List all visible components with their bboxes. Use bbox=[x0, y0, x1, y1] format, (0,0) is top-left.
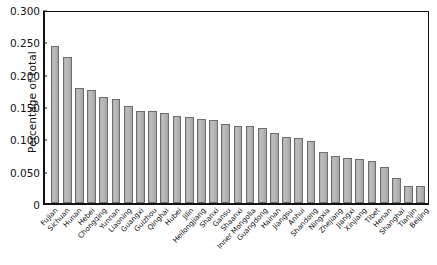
bar-slot bbox=[207, 12, 219, 203]
bar bbox=[87, 90, 96, 203]
bar bbox=[355, 159, 364, 203]
bar bbox=[99, 97, 108, 203]
plot-area bbox=[43, 11, 429, 205]
bar-slot bbox=[415, 12, 427, 203]
bar-slot bbox=[354, 12, 366, 203]
bar-slot bbox=[183, 12, 195, 203]
bar bbox=[75, 88, 84, 203]
bar-chart: Percentage of total 00.0500.1000.1500.20… bbox=[0, 0, 437, 265]
y-tick-mark bbox=[43, 108, 47, 109]
bar-slot bbox=[317, 12, 329, 203]
bar bbox=[197, 119, 206, 203]
y-tick-mark bbox=[43, 11, 47, 12]
bar bbox=[246, 126, 255, 203]
bar bbox=[282, 137, 291, 203]
bar-slot bbox=[49, 12, 61, 203]
y-tick-label: 0.250 bbox=[0, 37, 40, 49]
bar bbox=[270, 133, 279, 203]
y-tick-label: 0.150 bbox=[0, 102, 40, 114]
bar-slot bbox=[98, 12, 110, 203]
bar-slot bbox=[122, 12, 134, 203]
bar-slot bbox=[134, 12, 146, 203]
bar bbox=[258, 128, 267, 203]
bar-slot bbox=[244, 12, 256, 203]
bar bbox=[234, 126, 243, 203]
bar bbox=[136, 111, 145, 203]
y-tick-label: 0 bbox=[0, 199, 40, 211]
bar bbox=[63, 57, 72, 203]
y-tick-label: 0.200 bbox=[0, 70, 40, 82]
bar bbox=[331, 156, 340, 203]
y-tick-mark bbox=[43, 140, 47, 141]
bar bbox=[209, 120, 218, 203]
bar bbox=[160, 113, 169, 203]
bar bbox=[51, 46, 60, 203]
bar-slot bbox=[73, 12, 85, 203]
bar-slot bbox=[110, 12, 122, 203]
y-tick-label: 0.300 bbox=[0, 5, 40, 17]
bar bbox=[148, 111, 157, 203]
bar-slot bbox=[281, 12, 293, 203]
x-axis-tick-labels: FujianSichuanHunanHebeiChongqingYunnanLi… bbox=[45, 206, 429, 265]
bar-slot bbox=[293, 12, 305, 203]
bars-layer bbox=[47, 12, 427, 203]
bar-slot bbox=[305, 12, 317, 203]
bar bbox=[112, 99, 121, 203]
bar bbox=[368, 161, 377, 203]
bar-slot bbox=[329, 12, 341, 203]
bar bbox=[416, 186, 425, 203]
bar bbox=[319, 152, 328, 203]
bar bbox=[380, 167, 389, 203]
y-tick-label: 0.100 bbox=[0, 134, 40, 146]
bar-slot bbox=[86, 12, 98, 203]
bar-slot bbox=[61, 12, 73, 203]
bar-slot bbox=[390, 12, 402, 203]
bar-slot bbox=[147, 12, 159, 203]
bar bbox=[307, 141, 316, 203]
bar bbox=[404, 186, 413, 203]
bar-slot bbox=[366, 12, 378, 203]
bar-slot bbox=[159, 12, 171, 203]
bar bbox=[343, 158, 352, 203]
bar-slot bbox=[402, 12, 414, 203]
bar-slot bbox=[171, 12, 183, 203]
bar-slot bbox=[220, 12, 232, 203]
bar bbox=[221, 124, 230, 203]
y-tick-mark bbox=[43, 75, 47, 76]
bar-slot bbox=[342, 12, 354, 203]
bar bbox=[294, 138, 303, 203]
bar bbox=[173, 116, 182, 203]
bar-slot bbox=[232, 12, 244, 203]
bar bbox=[392, 178, 401, 203]
bar-slot bbox=[256, 12, 268, 203]
bar bbox=[185, 117, 194, 203]
y-tick-label: 0.050 bbox=[0, 167, 40, 179]
y-tick-mark bbox=[43, 43, 47, 44]
y-axis-tick-labels: 00.0500.1000.1500.2000.2500.300 bbox=[0, 0, 40, 265]
bar bbox=[124, 106, 133, 203]
bar-slot bbox=[268, 12, 280, 203]
bar-slot bbox=[195, 12, 207, 203]
y-tick-mark bbox=[43, 172, 47, 173]
bar-slot bbox=[378, 12, 390, 203]
